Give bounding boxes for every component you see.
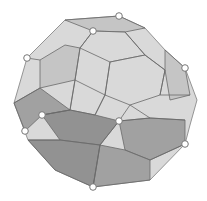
polyhedron-figure <box>0 0 207 201</box>
face <box>165 50 190 100</box>
vertex-marker <box>182 65 189 72</box>
vertex-marker <box>116 13 123 20</box>
vertex-marker <box>90 28 97 35</box>
vertex-marker <box>39 112 46 119</box>
vertex-marker <box>182 141 189 148</box>
vertex-marker <box>90 184 97 191</box>
vertex-marker <box>116 118 123 125</box>
vertex-marker <box>22 128 29 135</box>
face <box>28 140 100 187</box>
vertex-marker <box>24 55 31 62</box>
